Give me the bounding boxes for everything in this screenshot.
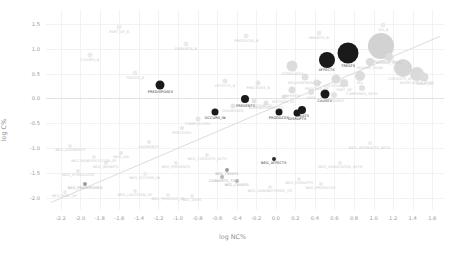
y-tick-label: 1.5 (32, 21, 40, 27)
data-point-label: CAUSES_B (81, 58, 100, 62)
data-point-label: NEG_PROCESS_OF (152, 197, 185, 201)
data-point[interactable] (212, 108, 219, 115)
data-point[interactable] (252, 99, 257, 104)
data-point[interactable] (156, 81, 165, 90)
data-point-label: PART_OF_B (109, 30, 129, 34)
data-point[interactable] (76, 169, 80, 173)
data-point[interactable] (297, 177, 301, 181)
data-point-label: MANIFESTATION_OF (236, 104, 272, 108)
data-point-label: USES (306, 96, 316, 100)
data-point[interactable] (222, 79, 227, 84)
data-point[interactable] (92, 155, 96, 159)
y-tick-label: 0.0 (32, 95, 40, 101)
data-point[interactable] (338, 161, 342, 165)
data-point[interactable] (308, 89, 314, 95)
data-point[interactable] (195, 117, 200, 122)
y-tick-label: -2.0 (30, 195, 40, 201)
data-point[interactable] (88, 52, 93, 57)
data-point[interactable] (420, 72, 429, 81)
scatter-chart: PREDISPOSESOCCURS_INPREVENTSPRODUCESTREA… (0, 0, 465, 260)
data-point[interactable] (294, 110, 301, 117)
data-point[interactable] (143, 172, 147, 176)
data-point-label: MEASUREMENT_OF (288, 81, 323, 85)
data-point[interactable] (117, 24, 122, 29)
data-point[interactable] (220, 175, 224, 179)
data-point[interactable] (230, 104, 235, 109)
data-point-label: NEG_PREVENTS (162, 165, 191, 169)
data-point[interactable] (119, 151, 123, 155)
data-point[interactable] (368, 141, 372, 145)
data-point[interactable] (241, 95, 249, 103)
y-axis-label: log C% (0, 119, 8, 141)
x-tick-label: 1.2 (389, 215, 397, 221)
data-point[interactable] (166, 193, 170, 197)
y-tick-label: 0.5 (32, 71, 40, 77)
data-point[interactable] (340, 79, 348, 87)
data-point[interactable] (244, 33, 249, 38)
data-point-label: AFFECTS (319, 68, 335, 72)
data-point-label: NEG_USES (182, 198, 201, 202)
data-point[interactable] (319, 182, 323, 186)
data-point[interactable] (359, 85, 365, 91)
data-point-label: DISRUPTS_B (175, 47, 197, 51)
data-point-label: NEG_ASSOCIATED_WITH (318, 165, 362, 169)
data-point[interactable] (289, 87, 296, 94)
data-point[interactable] (63, 190, 67, 194)
data-point[interactable] (235, 179, 239, 183)
data-point[interactable] (385, 53, 393, 61)
data-point-label: ISA_B (378, 28, 388, 32)
x-tick-label: -2.0 (75, 215, 85, 221)
data-point-label: NEG_INTERACTS_WITH (349, 146, 390, 150)
x-tick-label: 1.0 (369, 215, 377, 221)
data-point[interactable] (366, 58, 374, 66)
data-point[interactable] (68, 144, 72, 148)
data-point[interactable] (331, 92, 337, 98)
data-point[interactable] (256, 81, 261, 86)
data-point-label: DISRUPTS (288, 117, 306, 121)
data-point-label: DIAGNOSES (222, 109, 244, 113)
data-point[interactable] (381, 22, 386, 27)
x-tick-label: -0.4 (232, 215, 242, 221)
data-point[interactable] (302, 73, 309, 80)
x-tick-label: 0.2 (291, 215, 299, 221)
data-point-label: NEG_COEXISTS_WITH (188, 157, 227, 161)
y-tick-label: -1.0 (30, 145, 40, 151)
data-point[interactable] (83, 182, 87, 186)
data-point[interactable] (319, 52, 335, 68)
x-tick-label: 1.6 (428, 215, 436, 221)
data-point-label: INHIBITS (285, 94, 301, 98)
data-point[interactable] (355, 71, 365, 81)
data-point[interactable] (183, 41, 188, 46)
data-point-label: NEG_AUGMENTS (55, 148, 85, 152)
data-point[interactable] (180, 126, 184, 130)
x-tick-label: -1.4 (134, 215, 144, 221)
data-point[interactable] (225, 168, 229, 172)
data-point-label: NEG_LOCATION_OF (118, 193, 153, 197)
data-point[interactable] (132, 70, 137, 75)
data-point[interactable] (316, 30, 321, 35)
data-point-label: NEG_ADMINISTERED_TO (248, 189, 292, 193)
y-tick-label: -1.5 (30, 170, 40, 176)
data-point[interactable] (205, 153, 209, 157)
data-point[interactable] (133, 189, 137, 193)
data-point-label: STIMULATES (281, 72, 304, 76)
data-point-label: NEG_OCCURS_IN (129, 176, 160, 180)
data-point[interactable] (174, 161, 178, 165)
data-point-label: COMPLICATES (185, 122, 210, 126)
x-tick-label: -1.6 (114, 215, 124, 221)
y-tick-label: 1.0 (32, 46, 40, 52)
plot-area: PREDISPOSESOCCURS_INPREVENTSPRODUCESTREA… (46, 10, 444, 210)
data-point[interactable] (190, 194, 194, 198)
data-point[interactable] (147, 140, 151, 144)
data-point[interactable] (338, 42, 359, 63)
data-point[interactable] (272, 157, 276, 161)
data-point-label: METHOD_OF (272, 100, 295, 104)
data-point[interactable] (287, 60, 298, 71)
data-point-label: COMPARED_WITH (346, 92, 378, 96)
data-point[interactable] (281, 95, 286, 100)
data-point[interactable] (268, 185, 272, 189)
x-tick-label: -0.8 (193, 215, 203, 221)
data-point-label: HIGHER_THAN (357, 66, 383, 70)
x-tick-label: -2.2 (56, 215, 66, 221)
data-point-label: PRECEDES_B (246, 86, 269, 90)
